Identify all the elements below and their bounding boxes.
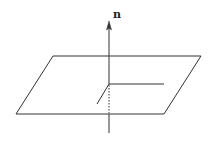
normal-vector-label: n (113, 9, 121, 20)
in-plane-axis-diagonal (97, 84, 109, 104)
plane-normal-diagram (0, 0, 214, 143)
